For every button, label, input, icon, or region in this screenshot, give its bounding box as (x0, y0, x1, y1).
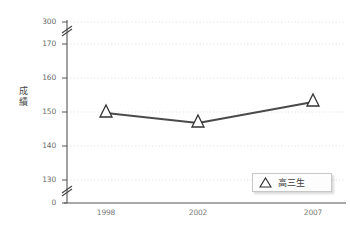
y-tick-label-300: 300 (30, 17, 56, 26)
y-tick-label-150: 150 (30, 107, 56, 116)
y-axis-title: 成績 (15, 86, 31, 108)
y-tick-label-160: 160 (30, 73, 56, 82)
y-tick-label-0: 0 (30, 198, 56, 207)
data-point-2007 (307, 94, 319, 106)
y-tick-label-140: 140 (30, 141, 56, 150)
chart-container: 成績 300 170 160 150 140 130 0 1998 2002 2… (0, 0, 350, 234)
y-tick-label-130: 130 (30, 175, 56, 184)
chart-legend: 高三生 (252, 173, 332, 192)
x-tick-label-2002: 2002 (178, 208, 218, 217)
triangle-up-icon (259, 177, 272, 188)
series-line-高三生 (106, 102, 313, 123)
y-axis-ticks (62, 22, 67, 203)
data-point-2002 (192, 115, 204, 127)
data-point-1998 (100, 105, 112, 117)
y-tick-label-170: 170 (30, 39, 56, 48)
gridlines (67, 22, 344, 180)
x-tick-label-2007: 2007 (293, 208, 333, 217)
x-tick-label-1998: 1998 (86, 208, 126, 217)
legend-label-高三生: 高三生 (278, 176, 305, 189)
series-markers (100, 94, 319, 127)
